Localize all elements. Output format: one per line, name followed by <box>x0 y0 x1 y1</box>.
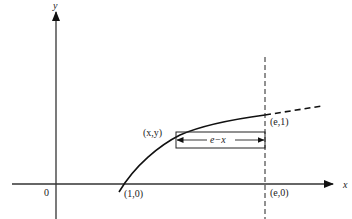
point-label-x-y: (x,y) <box>143 127 162 139</box>
point-label-e-0: (e,0) <box>270 187 289 199</box>
diagram-canvas: y x 0 (1,0) (e,0) (e,1) (x,y) e−x <box>0 0 352 219</box>
log-curve <box>119 115 265 192</box>
point-label-e-1: (e,1) <box>270 116 289 128</box>
log-curve-dashed-extension <box>265 106 322 115</box>
origin-label: 0 <box>44 187 49 198</box>
point-label-1-0: (1,0) <box>124 188 143 200</box>
width-label-e-minus-x: e−x <box>210 134 226 145</box>
x-axis-label: x <box>342 179 348 190</box>
y-axis-label: y <box>52 0 58 11</box>
